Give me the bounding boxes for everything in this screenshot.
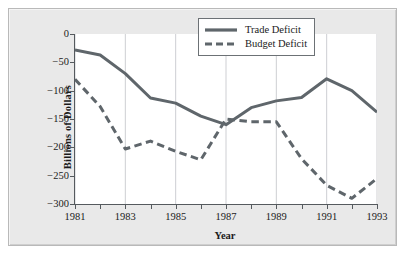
x-axis-tick-label: 1991 (316, 212, 337, 223)
x-axis-title: Year (74, 230, 376, 241)
x-axis-tick-mark (75, 204, 76, 209)
legend-label-budget-deficit: Budget Deficit (245, 39, 307, 50)
x-axis-tick-label: 1989 (266, 212, 287, 223)
x-axis-tick-mark (276, 204, 277, 209)
x-axis-tick-mark (201, 204, 202, 209)
x-axis-tick-mark (125, 204, 126, 209)
y-axis-tick-label: −150 (47, 114, 69, 125)
y-axis-tick-mark (70, 91, 75, 92)
legend-swatch-solid-icon (204, 25, 238, 35)
x-axis-tick-label: 1985 (165, 212, 186, 223)
x-axis-tick-mark (151, 204, 152, 209)
legend-item-trade-deficit: Trade Deficit (204, 23, 307, 37)
legend-swatch-dashed-icon (204, 39, 238, 49)
x-axis-tick-mark (352, 204, 353, 209)
x-axis-tick-label: 1993 (367, 212, 388, 223)
x-axis-tick-mark (377, 204, 378, 209)
y-axis-tick-label: 0 (64, 29, 69, 40)
y-axis-tick-label: −300 (47, 199, 69, 210)
y-axis-tick-label: −250 (47, 170, 69, 181)
x-axis-tick-mark (226, 204, 227, 209)
y-axis-tick-mark (70, 62, 75, 63)
y-axis-title: Billions of Dollars (62, 85, 73, 169)
y-axis-tick-mark (70, 34, 75, 35)
x-axis-tick-mark (100, 204, 101, 209)
y-axis-tick-mark (70, 119, 75, 120)
y-axis-tick-mark (70, 147, 75, 148)
x-axis-tick-label: 1987 (216, 212, 237, 223)
chart-canvas (75, 34, 377, 204)
chart-figure: Billions of Dollars 0−50−100−150−200−250… (8, 8, 397, 246)
x-axis-tick-mark (327, 204, 328, 209)
x-axis-tick-mark (302, 204, 303, 209)
legend-label-trade-deficit: Trade Deficit (245, 25, 301, 36)
x-axis-tick-label: 1983 (115, 212, 136, 223)
chart-legend: Trade Deficit Budget Deficit (198, 18, 315, 56)
gridlines (75, 34, 377, 204)
y-axis-tick-label: −200 (47, 142, 69, 153)
x-axis-tick-mark (176, 204, 177, 209)
plot-area: 0−50−100−150−200−250−300 198119831985198… (74, 34, 377, 205)
y-axis-tick-mark (70, 176, 75, 177)
x-axis-tick-mark (251, 204, 252, 209)
legend-item-budget-deficit: Budget Deficit (204, 37, 307, 51)
y-axis-tick-label: −100 (47, 85, 69, 96)
x-axis-tick-label: 1981 (65, 212, 86, 223)
y-axis-tick-label: −50 (53, 57, 69, 68)
